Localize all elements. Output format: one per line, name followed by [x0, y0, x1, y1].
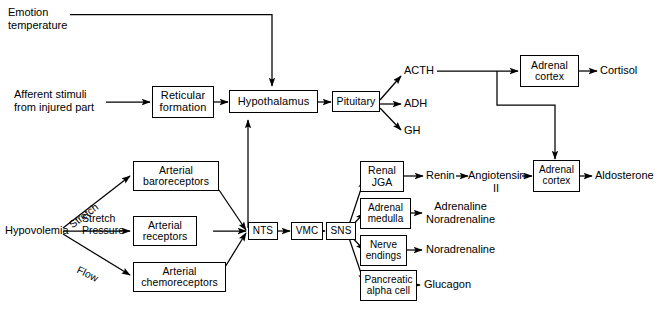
node-adrenal-cortex-top[interactable]: Adrenal cortex: [520, 55, 579, 87]
node-hypothalamus[interactable]: Hypothalamus: [229, 90, 318, 113]
node-vmc[interactable]: VMC: [291, 222, 323, 240]
node-nts-label: NTS: [253, 226, 273, 237]
label-aldosterone: Aldosterone: [595, 169, 654, 182]
label-hypovolemia-text: Hypovolemia: [5, 224, 69, 237]
label-noradrenaline-only-text: Noradrenaline: [426, 243, 495, 256]
connector-layer: [0, 0, 659, 309]
node-pancreatic-alpha-cell-line1: Pancreatic: [364, 275, 412, 286]
node-arterial-receptors-line2: receptors: [143, 231, 188, 242]
label-renin: Renin: [426, 169, 455, 182]
label-cortisol-text: Cortisol: [600, 64, 637, 77]
wire-pituitary-to-gh: [380, 108, 401, 130]
label-angiotensin-line2: II: [468, 182, 524, 195]
node-nerve-endings-line2: endings: [366, 251, 402, 262]
node-pancreatic-alpha-cell[interactable]: Pancreatic alpha cell: [360, 270, 417, 301]
node-reticular-formation[interactable]: Reticular formation: [152, 86, 214, 118]
wire-baroreceptors-to-nts: [219, 190, 246, 230]
label-afferent-line1: Afferent stimuli: [14, 88, 94, 101]
label-gh-text: GH: [404, 124, 421, 137]
node-arterial-receptors[interactable]: Arterial receptors: [133, 216, 197, 246]
node-nerve-endings-line1: Nerve: [370, 240, 397, 251]
label-adrenaline-noradrenaline: Adrenaline Noradrenaline: [426, 200, 495, 226]
label-angiotensin-ii: Angiotensin II: [468, 169, 524, 195]
flowchart-canvas: Emotion temperature Afferent stimuli fro…: [0, 0, 659, 309]
label-emotion-line2: temperature: [8, 19, 67, 32]
node-adrenal-medulla-line2: medulla: [368, 214, 404, 225]
label-emotion-line1: Emotion: [8, 6, 67, 19]
label-glucagon-text: Glucagon: [424, 278, 471, 291]
label-renin-text: Renin: [426, 169, 455, 182]
node-vmc-label: VMC: [296, 226, 319, 237]
node-adrenal-cortex-bottom[interactable]: Adrenal cortex: [533, 160, 580, 192]
label-adrenaline-text: Adrenaline: [426, 200, 495, 213]
node-arterial-baroreceptors[interactable]: Arterial baroreceptors: [133, 161, 219, 191]
node-pancreatic-alpha-cell-line2: alpha cell: [367, 286, 410, 297]
label-stretch-pressure: Stretch Pressure: [82, 212, 124, 237]
node-renal-jga[interactable]: Renal JGA: [360, 161, 404, 192]
node-arterial-baroreceptors-line2: baroreceptors: [143, 176, 209, 187]
node-hypothalamus-label: Hypothalamus: [238, 96, 310, 108]
node-renal-jga-line2: JGA: [372, 177, 393, 188]
node-adrenal-cortex-bottom-line2: cortex: [543, 176, 571, 187]
label-gh: GH: [404, 124, 421, 137]
label-noradrenaline: Noradrenaline: [426, 243, 495, 256]
wire-hypovolemia-to-chemoreceptors: [63, 234, 130, 275]
label-acth-text: ACTH: [404, 64, 434, 77]
node-renal-jga-line1: Renal: [368, 165, 396, 176]
label-aldosterone-text: Aldosterone: [595, 169, 654, 182]
label-cortisol: Cortisol: [600, 64, 637, 77]
node-nts[interactable]: NTS: [248, 222, 278, 240]
label-afferent-line2: from injured part: [14, 101, 94, 114]
label-emotion-temperature: Emotion temperature: [8, 6, 67, 32]
node-nerve-endings[interactable]: Nerve endings: [360, 235, 407, 266]
label-afferent-stimuli: Afferent stimuli from injured part: [14, 88, 94, 114]
node-arterial-chemoreceptors[interactable]: Arterial chemoreceptors: [133, 262, 226, 292]
label-angiotensin-line1: Angiotensin: [468, 169, 524, 182]
node-adrenal-medulla-line1: Adrenal: [368, 203, 403, 214]
node-pituitary[interactable]: Pituitary: [332, 91, 380, 112]
wire-emotion-to-hypothalamus: [70, 15, 272, 87]
wire-pituitary-to-acth: [380, 76, 401, 100]
node-sns[interactable]: SNS: [326, 222, 356, 240]
label-pressure-text: Pressure: [82, 224, 124, 236]
node-arterial-chemoreceptors-line2: chemoreceptors: [141, 277, 218, 288]
node-adrenal-cortex-top-line2: cortex: [535, 71, 564, 82]
label-stretch-text: Stretch: [82, 212, 124, 224]
node-reticular-formation-line2: formation: [160, 102, 207, 114]
node-pituitary-label: Pituitary: [337, 96, 376, 107]
label-adh-text: ADH: [404, 97, 427, 110]
node-adrenal-medulla[interactable]: Adrenal medulla: [360, 198, 411, 229]
node-sns-label: SNS: [331, 226, 352, 237]
label-acth: ACTH: [404, 64, 434, 77]
label-noradrenaline-text: Noradrenaline: [426, 213, 495, 226]
label-adh: ADH: [404, 97, 427, 110]
label-hypovolemia: Hypovolemia: [5, 224, 69, 237]
label-glucagon: Glucagon: [424, 278, 471, 291]
